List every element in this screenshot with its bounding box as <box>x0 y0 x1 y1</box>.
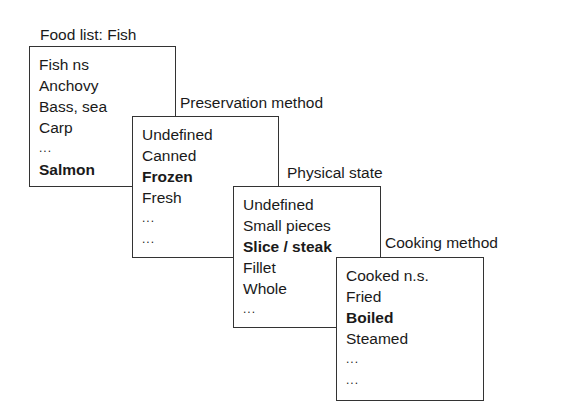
list-item-ellipsis: ... <box>346 349 483 370</box>
list-item-ellipsis: ... <box>346 370 483 391</box>
cooking-method-box: Cooked n.s. Fried Boiled Steamed ... ... <box>336 257 484 401</box>
list-item: Steamed <box>346 328 483 349</box>
list-item: Fried <box>346 286 483 307</box>
list-item: Canned <box>142 145 278 166</box>
selected-item: Frozen <box>142 166 278 187</box>
selected-item: Slice / steak <box>243 236 380 257</box>
panel-title-cooking-method: Cooking method <box>385 234 498 252</box>
panel-title-food-list: Food list: Fish <box>40 26 136 44</box>
list-item: Bass, sea <box>39 96 175 117</box>
list-item: Undefined <box>142 124 278 145</box>
list-item: Undefined <box>243 194 380 215</box>
panel-title-preservation: Preservation method <box>180 94 323 112</box>
list-item: Anchovy <box>39 75 175 96</box>
list-item: Cooked n.s. <box>346 265 483 286</box>
list-item: Fish ns <box>39 54 175 75</box>
panel-title-physical-state: Physical state <box>287 164 383 182</box>
selected-item: Boiled <box>346 307 483 328</box>
list-item: Small pieces <box>243 215 380 236</box>
